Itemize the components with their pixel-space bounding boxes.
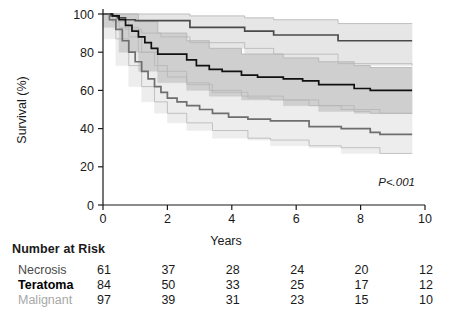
table-row: Malignant 973931231510 bbox=[0, 293, 452, 308]
y-axis-title: Survival (%) bbox=[15, 76, 29, 143]
x-tick-label: 10 bbox=[418, 212, 432, 226]
number-at-risk-table: Number at Risk Necrosis 613728242012 Ter… bbox=[0, 238, 452, 321]
x-tick-label: 8 bbox=[357, 212, 364, 226]
risk-value: 31 bbox=[226, 293, 240, 307]
risk-value: 39 bbox=[161, 293, 175, 307]
risk-value: 12 bbox=[419, 263, 433, 277]
risk-row-group-label: Malignant bbox=[18, 293, 72, 307]
y-tick-label: 40 bbox=[80, 122, 94, 136]
kaplan-meier-plot: 0204060801000246810 Survival (%) P<.001 bbox=[0, 0, 452, 240]
risk-value: 17 bbox=[355, 278, 369, 292]
confidence-bands bbox=[103, 14, 412, 153]
p-value-annotation: P<.001 bbox=[378, 176, 415, 188]
risk-value: 33 bbox=[226, 278, 240, 292]
risk-row-group-label: Teratoma bbox=[18, 278, 73, 292]
risk-value: 37 bbox=[161, 263, 175, 277]
risk-value: 12 bbox=[419, 278, 433, 292]
risk-value: 61 bbox=[97, 263, 111, 277]
table-row: Teratoma 845033251712 bbox=[0, 278, 452, 293]
x-tick-label: 2 bbox=[164, 212, 171, 226]
risk-value: 15 bbox=[355, 293, 369, 307]
y-tick-label: 60 bbox=[80, 84, 94, 98]
risk-value: 20 bbox=[355, 263, 369, 277]
risk-row-group-label: Necrosis bbox=[18, 263, 67, 277]
survival-figure: 0204060801000246810 Survival (%) P<.001 … bbox=[0, 0, 452, 321]
x-tick-label: 6 bbox=[293, 212, 300, 226]
risk-value: 97 bbox=[97, 293, 111, 307]
risk-value: 24 bbox=[290, 263, 304, 277]
y-tick-label: 100 bbox=[73, 8, 94, 22]
risk-value: 84 bbox=[97, 278, 111, 292]
y-tick-label: 80 bbox=[80, 46, 94, 60]
x-tick-label: 0 bbox=[100, 212, 107, 226]
risk-value: 25 bbox=[290, 278, 304, 292]
risk-value: 23 bbox=[290, 293, 304, 307]
y-tick-label: 0 bbox=[87, 199, 94, 213]
risk-value: 10 bbox=[419, 293, 433, 307]
y-tick-label: 20 bbox=[80, 160, 94, 174]
risk-value: 28 bbox=[226, 263, 240, 277]
risk-value: 50 bbox=[161, 278, 175, 292]
x-tick-label: 4 bbox=[228, 212, 235, 226]
risk-table-title: Number at Risk bbox=[12, 242, 105, 256]
table-row: Necrosis 613728242012 bbox=[0, 263, 452, 278]
